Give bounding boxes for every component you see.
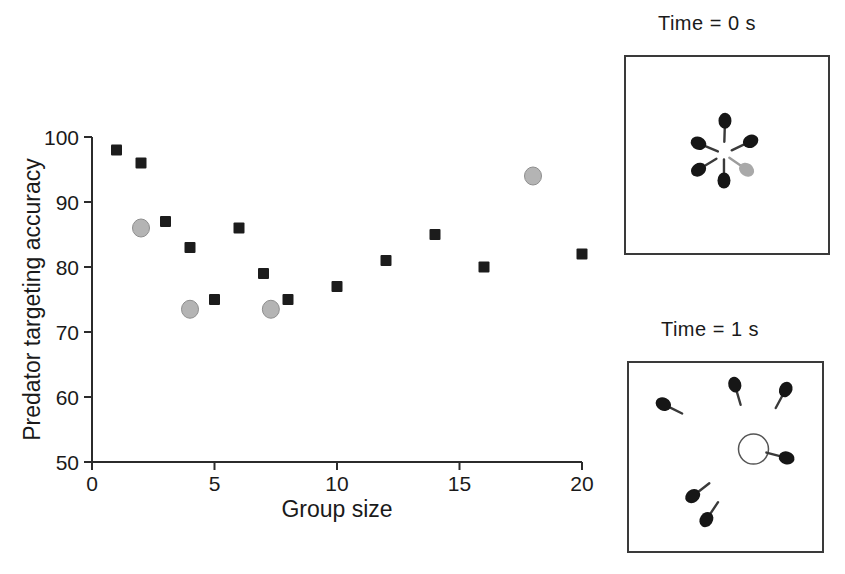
figure: 506070809010005101520Group sizePredator …	[0, 0, 845, 574]
y-axis-tick-label: 70	[56, 321, 79, 344]
prey-tail	[710, 502, 718, 514]
scatter-point-square	[234, 223, 245, 234]
scatter-point-square	[332, 281, 343, 292]
y-axis-tick-label: 100	[44, 126, 79, 149]
scatter-point-square	[258, 268, 269, 279]
inset-box-time-0	[624, 55, 830, 255]
prey-tail	[704, 159, 717, 167]
scatter-point-square	[479, 262, 490, 273]
scatter-point-square	[160, 216, 171, 227]
scatter-chart: 506070809010005101520Group sizePredator …	[0, 0, 620, 574]
prey-body-black	[653, 395, 673, 414]
prey-body-black	[741, 132, 761, 151]
prey-body-black	[688, 160, 708, 179]
y-axis-title: Predator targeting accuracy	[19, 158, 45, 441]
inset-title-time-0: Time = 0 s	[604, 12, 810, 35]
scatter-point-square	[185, 242, 196, 253]
prey-body-black	[777, 450, 796, 467]
scatter-point-square	[136, 158, 147, 169]
scatter-point-square	[430, 229, 441, 240]
prey-tail	[766, 453, 780, 457]
scatter-point-circle	[182, 300, 199, 318]
scatter-point-square	[381, 255, 392, 266]
prey-tail	[736, 390, 740, 404]
prey-scatter-diagram-time-1	[629, 363, 822, 551]
vacated-position-circle	[738, 434, 768, 464]
inset-box-time-1	[627, 361, 824, 553]
x-axis-tick-label: 5	[209, 472, 221, 495]
scatter-point-circle	[133, 219, 150, 237]
scatter-point-circle	[525, 167, 542, 185]
prey-tail	[732, 144, 746, 150]
prey-tail	[704, 146, 718, 152]
prey-tail	[729, 158, 741, 167]
scatter-point-square	[209, 294, 220, 305]
scatter-point-square	[111, 145, 122, 156]
x-axis-tick-label: 20	[570, 472, 593, 495]
prey-group-diagram-time-0	[626, 57, 828, 253]
x-axis-tick-label: 0	[86, 472, 98, 495]
prey-body-gray	[736, 160, 757, 180]
prey-body-black	[776, 379, 795, 399]
prey-body-black	[697, 509, 717, 530]
y-axis-tick-label: 90	[56, 191, 79, 214]
scatter-point-square	[577, 249, 588, 260]
scatter-point-square	[283, 294, 294, 305]
prey-tail	[669, 407, 682, 414]
x-axis-tick-label: 15	[448, 472, 471, 495]
prey-body-black	[718, 113, 731, 129]
prey-tail	[697, 483, 709, 492]
prey-body-black	[689, 134, 709, 152]
prey-body-black	[726, 375, 743, 394]
prey-tail	[776, 395, 783, 408]
prey-body-black	[717, 172, 730, 188]
y-axis-tick-label: 50	[56, 451, 79, 474]
x-axis-title: Group size	[281, 496, 392, 522]
scatter-point-circle	[262, 300, 279, 318]
y-axis-tick-label: 60	[56, 386, 79, 409]
inset-title-time-1: Time = 1 s	[607, 318, 813, 341]
y-axis-tick-label: 80	[56, 256, 79, 279]
x-axis-tick-label: 10	[325, 472, 348, 495]
